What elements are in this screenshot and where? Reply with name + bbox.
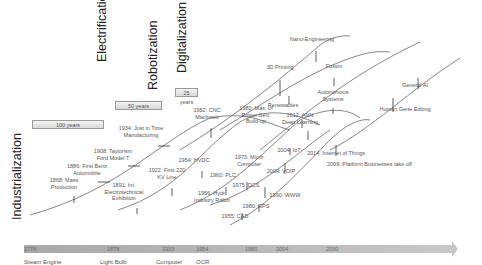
milestone-label: AutonomousSystems (303, 89, 363, 102)
timeline-axis (24, 241, 458, 257)
timeline-year: 1878 (107, 246, 119, 252)
timeline-year: 1933 (162, 246, 174, 252)
timeline-invention: Computer (156, 259, 182, 265)
timeline-year: 1776 (24, 246, 36, 252)
duration-arrow: 50 years (115, 101, 162, 110)
milestone-label: Nano-Engineering (282, 36, 342, 43)
milestone-label: 1922: First 220KV Line (137, 167, 197, 180)
milestone-label: Renewables (253, 102, 313, 109)
timeline-invention: Steam Engine (24, 259, 62, 265)
timeline-invention: OCR (196, 259, 209, 265)
milestone-label: 1891: Int.ElectrotechnicalExhibition (94, 182, 154, 202)
milestone-label: 2009: Platform Businesses take off (327, 161, 387, 168)
milestone-label: 1954: HVDC (164, 157, 224, 164)
era-label: Robotization (146, 21, 160, 91)
milestone-label: Human Gene Editing (375, 106, 435, 113)
duration-arrow: 100 years (32, 120, 104, 129)
timeline-invention: Light Bulb (100, 259, 127, 265)
era-label: Industrialization (10, 133, 24, 220)
milestone-label: 2004: VOIP (251, 168, 311, 175)
innovation-waves-diagram (0, 0, 482, 265)
timeline-year: 1980 (245, 246, 257, 252)
timeline-year: 2030 (326, 246, 338, 252)
milestone-label: 1980: GPS (226, 203, 286, 210)
milestone-label: 1934: Just in TimeManufacturing (111, 125, 171, 138)
milestone-label: General AI (385, 82, 445, 89)
milestone-label: 1886: First BenzAutomobile (57, 163, 117, 176)
era-label: Digitalization (175, 2, 189, 73)
milestone-label: 1973: MicroComputer (219, 154, 279, 167)
milestone-label: Fusion (304, 63, 364, 70)
milestone-label: 1960: PLC (193, 172, 253, 179)
timeline-year: 1954 (196, 246, 208, 252)
milestone-label: 1955: CAD (205, 213, 265, 220)
milestone-label: 1990: WWW (255, 192, 315, 199)
milestone-label: 1975: DCS (216, 182, 276, 189)
milestone-label: 1956: Hydr.Industry Robot (182, 190, 242, 203)
milestone-label: 1908: TaylorismFord Model T (83, 148, 143, 161)
milestone-label: 2012: ANNDeep Learning (270, 112, 330, 125)
milestone-label: 3D Printing (250, 64, 310, 71)
milestone-label: 1868: MassProduction (34, 177, 94, 190)
timeline-year: 2004 (276, 246, 288, 252)
milestone-label: 2014: Internet of Things (306, 150, 366, 157)
duration-arrow: 25 years (175, 88, 198, 97)
era-label: Electrification (95, 0, 109, 62)
